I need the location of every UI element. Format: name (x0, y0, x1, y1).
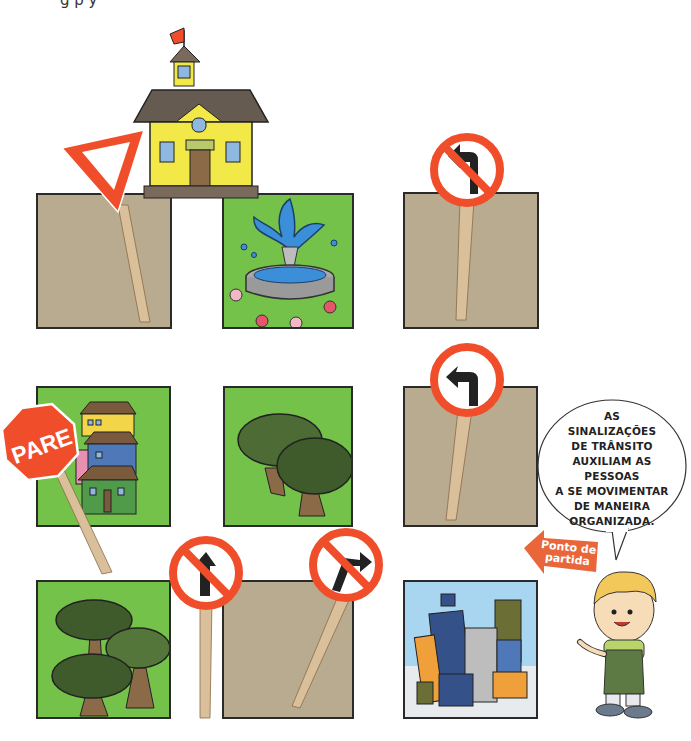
no-right-turn-sign-icon (313, 532, 379, 598)
boy-character-icon (580, 572, 656, 718)
bubble-line: DE TRÂNSITO (538, 439, 686, 454)
yield-post (118, 205, 150, 322)
bubble-line: SINALIZAÇÕES (538, 424, 686, 439)
signs-layer (0, 0, 691, 741)
speech-bubble-text: AS SINALIZAÇÕES DE TRÂNSITO AUXILIAM AS … (538, 409, 686, 529)
bubble-line: PESSOAS (538, 469, 686, 484)
bubble-line: AS (538, 409, 686, 424)
bubble-line: DE MANEIRA (538, 499, 686, 514)
bubble-line: ORGANIZADA. (538, 514, 686, 529)
turn-left-sign-icon (434, 347, 500, 413)
no-left-turn-sign-icon (434, 137, 500, 203)
bubble-line: A SE MOVIMENTAR (538, 484, 686, 499)
no-straight-ahead-sign-icon (173, 540, 239, 606)
yield-sign-icon (62, 130, 144, 212)
bubble-line: AUXILIAM AS (538, 454, 686, 469)
